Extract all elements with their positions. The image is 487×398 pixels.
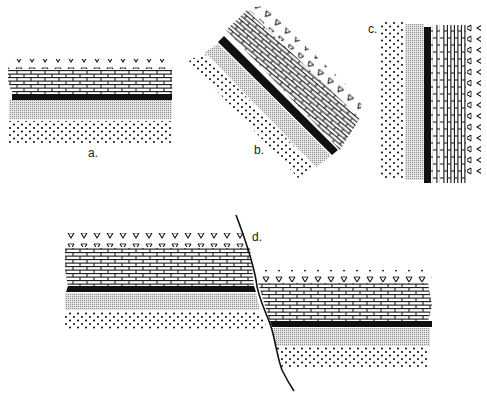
left-block <box>65 233 268 330</box>
panel-a-horizontal: a. <box>8 59 172 160</box>
layer-limestone <box>431 25 466 183</box>
panel-b-tilted: b. <box>188 6 362 180</box>
panel-c-vertical: c. <box>368 22 481 183</box>
layer-shale <box>272 328 430 346</box>
layer-coal <box>12 94 172 100</box>
panel-c-label: c. <box>368 22 377 36</box>
layer-coal <box>66 286 256 292</box>
layer-volcanics <box>65 233 250 247</box>
layer-coal <box>424 27 431 183</box>
layer-shale <box>405 24 424 180</box>
layer-sandstone <box>8 121 172 144</box>
layer-volcanics <box>256 270 432 282</box>
layer-limestone <box>8 70 172 95</box>
right-block <box>256 270 432 368</box>
geology-figure: a. b. c. <box>0 0 487 398</box>
layer-limestone <box>258 283 432 322</box>
layer-shale <box>65 293 260 310</box>
layer-sandstone <box>381 22 404 179</box>
panel-b-label: b. <box>254 143 264 157</box>
layer-sandstone <box>276 347 428 368</box>
layer-volcanics <box>8 59 172 69</box>
layer-volcanics <box>467 22 481 178</box>
panel-d-label: d. <box>252 230 262 244</box>
layer-shale <box>9 100 172 119</box>
layer-coal <box>270 321 432 327</box>
layer-sandstone <box>65 312 268 330</box>
layer-limestone <box>65 248 254 286</box>
panel-d-faulted: d. <box>65 215 432 391</box>
panel-a-label: a. <box>88 146 98 160</box>
